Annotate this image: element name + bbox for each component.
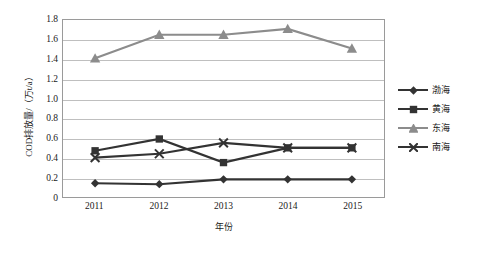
legend-item-triangle[interactable]: 东海 <box>398 118 490 137</box>
data-point-diamond <box>91 179 99 187</box>
data-point-triangle <box>409 124 418 133</box>
plot-series-svg <box>63 20 384 197</box>
data-point-square <box>220 159 227 166</box>
y-tick-label: 1.2 <box>46 74 58 84</box>
legend-item-x[interactable]: 南海 <box>398 137 490 156</box>
legend-label: 东海 <box>432 121 450 134</box>
data-point-square <box>410 105 417 112</box>
legend-label: 南海 <box>432 140 450 153</box>
y-tick-label: 0.8 <box>46 113 58 123</box>
series-line <box>95 143 352 158</box>
y-tick-label: 0.4 <box>46 153 58 163</box>
chart-legend: 渤海黄海东海南海 <box>398 80 490 156</box>
legend-label: 黄海 <box>432 102 450 115</box>
series-triangle <box>90 24 357 63</box>
data-point-diamond <box>284 175 292 183</box>
x-tick-label: 2014 <box>258 201 318 211</box>
legend-key-icon <box>398 83 428 97</box>
data-point-diamond <box>348 175 356 183</box>
legend-key-icon <box>398 121 428 135</box>
y-tick-label: 1.0 <box>46 94 58 104</box>
legend-key-icon <box>398 140 428 154</box>
data-point-diamond <box>219 175 227 183</box>
x-tick-label: 2012 <box>129 201 189 211</box>
data-point-square <box>91 147 98 154</box>
legend-item-square[interactable]: 黄海 <box>398 99 490 118</box>
series-x <box>91 139 357 162</box>
y-tick-label: 0.6 <box>46 133 58 143</box>
cod-discharge-line-chart: COD排放量/（万t/a） 1.81.61.41.21.00.80.60.40.… <box>0 0 496 254</box>
data-point-square <box>156 135 163 142</box>
x-tick-label: 2011 <box>64 201 124 211</box>
x-tick-label: 2013 <box>194 201 254 211</box>
y-tick-label: 1.8 <box>46 14 58 24</box>
y-tick-label: 0 <box>53 193 58 203</box>
y-axis-tick-labels: 1.81.61.41.21.00.80.60.40.20 <box>22 14 58 198</box>
y-tick-label: 0.2 <box>46 173 58 183</box>
legend-label: 渤海 <box>432 83 450 96</box>
series-diamond <box>91 175 356 188</box>
plot-area <box>62 19 385 198</box>
x-tick-label: 2015 <box>323 201 383 211</box>
data-point-diamond <box>155 180 163 188</box>
legend-item-diamond[interactable]: 渤海 <box>398 80 490 99</box>
data-point-diamond <box>409 86 417 94</box>
y-tick-label: 1.6 <box>46 34 58 44</box>
legend-key-icon <box>398 102 428 116</box>
x-axis-title: 年份 <box>62 220 385 233</box>
x-axis-tick-labels: 20112012201320142015 <box>62 201 385 217</box>
series-square <box>91 135 355 166</box>
y-tick-label: 1.4 <box>46 54 58 64</box>
data-point-x <box>409 143 418 152</box>
